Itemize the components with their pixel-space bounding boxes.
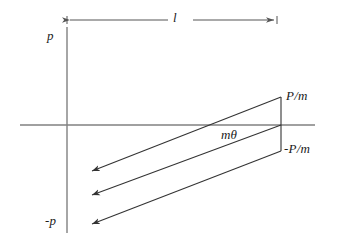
phase-space-diagram: p -p l P/m -P/m mθ [0,0,337,242]
label-negative-p-over-m: -P/m [284,142,310,155]
shear-line-bottom [92,151,281,224]
label-p-over-m: P/m [286,89,308,102]
label-p-negative: -p [45,214,56,227]
label-p-positive: p [47,29,54,42]
label-length: l [173,11,177,24]
length-dimension-line [67,16,277,24]
label-m-theta: mθ [221,128,237,141]
